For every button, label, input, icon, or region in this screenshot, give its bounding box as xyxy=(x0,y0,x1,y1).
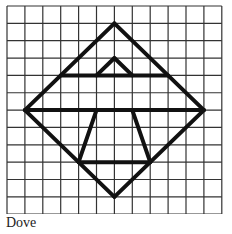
diamond-top-right xyxy=(114,23,203,110)
figure-caption: Dove xyxy=(6,215,36,231)
trapezoid-right xyxy=(132,110,150,162)
diamond-top-left xyxy=(25,23,115,110)
trapezoid-left xyxy=(79,110,97,162)
diamond-bottom-right xyxy=(114,110,203,197)
small-triangle-left xyxy=(97,58,115,75)
dove-grid-figure xyxy=(0,0,232,214)
small-triangle-right xyxy=(114,58,132,75)
diamond-bottom-left xyxy=(25,110,115,197)
